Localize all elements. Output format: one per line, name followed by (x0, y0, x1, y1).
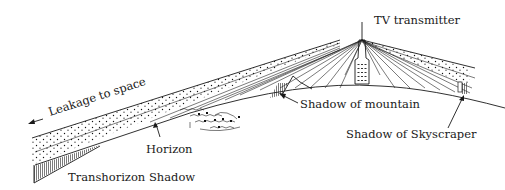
mountain-arrow-icon (279, 93, 286, 99)
label-shadow-mountain: Shadow of mountain (300, 97, 421, 111)
skyscraper-arrow-icon (459, 95, 464, 101)
tv-transmitter-tower (355, 22, 369, 84)
town-cluster (180, 109, 240, 131)
leakage-arrow-icon (28, 119, 35, 124)
diagram-svg: TV transmitter Leakage to space Horizon … (0, 0, 505, 190)
diagram-canvas: TV transmitter Leakage to space Horizon … (0, 0, 505, 190)
mountain (270, 76, 312, 98)
label-tv-transmitter: TV transmitter (374, 13, 461, 27)
label-shadow-skyscraper: Shadow of Skyscraper (346, 127, 477, 141)
label-horizon: Horizon (146, 142, 193, 156)
right-beam-band (362, 40, 475, 88)
label-transhorizon-shadow: Transhorizon Shadow (68, 170, 195, 184)
skyscraper (458, 82, 468, 94)
